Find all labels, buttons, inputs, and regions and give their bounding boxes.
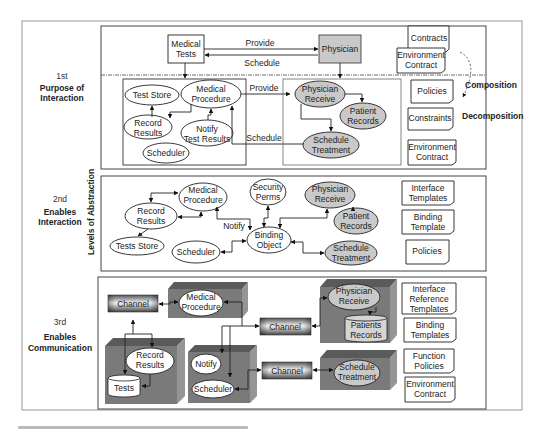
svg-text:Tests: Tests	[114, 383, 134, 393]
physician-receive-node: Physician Receive	[295, 81, 345, 107]
figure-caption	[18, 426, 248, 429]
svg-text:Interface: Interface	[411, 183, 444, 193]
svg-text:Perms: Perms	[256, 192, 281, 202]
policies-note: Policies	[411, 80, 453, 103]
svg-text:Policies: Policies	[417, 86, 446, 96]
svg-text:Contract: Contract	[405, 60, 438, 70]
svg-text:Templates: Templates	[411, 330, 450, 340]
svg-text:1st: 1st	[56, 71, 68, 81]
svg-text:Procedure: Procedure	[191, 94, 230, 104]
svg-text:Treatment: Treatment	[338, 372, 377, 382]
svg-text:Records: Records	[350, 330, 382, 340]
svg-text:3rd: 3rd	[54, 317, 67, 327]
l3-tests-cylinder: Tests	[108, 375, 140, 397]
svg-text:Results: Results	[137, 216, 165, 226]
svg-text:Records: Records	[340, 221, 372, 231]
svg-text:Object: Object	[257, 240, 282, 250]
l2-binding-object-node: Binding Object	[247, 227, 291, 253]
svg-text:Schedule: Schedule	[313, 135, 349, 145]
svg-text:Physician: Physician	[302, 84, 339, 94]
svg-text:Patients: Patients	[351, 320, 382, 330]
svg-text:Enables: Enables	[44, 207, 77, 217]
l3-interface-reference-templates-note: Interface Reference Templates	[402, 283, 456, 314]
l3-function-policies-note: Function Policies	[404, 349, 454, 373]
svg-text:Medical: Medical	[171, 39, 200, 49]
svg-text:Medical: Medical	[186, 292, 215, 302]
svg-text:Contract: Contract	[414, 389, 447, 399]
l2-tests-store-node: Tests Store	[110, 237, 164, 255]
test-store-node: Test Store	[125, 85, 179, 105]
l2-record-results-node: Record Results	[125, 203, 177, 229]
svg-text:Policies: Policies	[412, 246, 441, 256]
svg-text:Constraints: Constraints	[409, 113, 452, 123]
svg-text:Results: Results	[134, 128, 162, 138]
svg-text:Templates: Templates	[409, 193, 448, 203]
svg-text:Notify: Notify	[196, 124, 218, 134]
svg-text:Patient: Patient	[343, 211, 370, 221]
svg-text:Receive: Receive	[315, 194, 346, 204]
levels-of-abstraction-label: Levels of Abstraction	[86, 169, 96, 255]
svg-text:Record: Record	[136, 350, 164, 360]
svg-text:Physician: Physician	[322, 44, 359, 54]
medical-tests-box: Medical Tests	[168, 35, 204, 63]
composition-label: Composition	[465, 80, 517, 90]
svg-text:Binding: Binding	[414, 212, 443, 222]
svg-text:Binding: Binding	[416, 320, 445, 330]
svg-text:Reference: Reference	[409, 294, 448, 304]
svg-text:Test Results: Test Results	[184, 134, 230, 144]
svg-text:Tests Store: Tests Store	[116, 241, 159, 251]
svg-text:Test Store: Test Store	[133, 90, 172, 100]
constraints-note: Constraints	[408, 108, 453, 130]
svg-text:Purpose of: Purpose of	[40, 83, 85, 93]
l3-scheduler-node: Scheduler	[192, 380, 234, 398]
l2-schedule-treatment-node: Schedule Treatment	[325, 241, 377, 265]
svg-text:Record: Record	[134, 118, 162, 128]
svg-text:Treatment: Treatment	[332, 253, 371, 263]
svg-text:Template: Template	[411, 222, 446, 232]
l2-interface-templates-note: Interface Templates	[402, 181, 454, 205]
abstraction-levels-diagram: 1st Purpose of Interaction 2nd Enables I…	[0, 0, 546, 433]
svg-text:Enables: Enables	[44, 332, 77, 342]
svg-text:Security: Security	[253, 182, 284, 192]
decomposition-label: Decomposition	[462, 111, 523, 121]
l3-notify-node: Notify	[191, 354, 221, 374]
l3-physician-receive-node: Physician Receive	[328, 284, 380, 310]
l2-security-perms-node: Security Perms	[250, 179, 286, 205]
svg-text:Environment: Environment	[406, 379, 454, 389]
svg-text:Record: Record	[137, 206, 165, 216]
l3-medical-procedure-node: Medical Procedure	[179, 290, 223, 316]
l3-record-results-node: Record Results	[126, 348, 174, 374]
svg-text:Physician: Physician	[336, 286, 373, 296]
patient-records-node: Patient Records	[340, 103, 386, 129]
svg-text:Channel: Channel	[117, 299, 149, 309]
schedule-treatment-node: Schedule Treatment	[303, 132, 359, 158]
svg-text:Policies: Policies	[414, 361, 443, 371]
svg-text:Results: Results	[136, 360, 164, 370]
channel-3[interactable]: Channel	[262, 362, 312, 379]
environment-contract-top-note: Environment Contract	[397, 48, 445, 73]
l2-binding-template-note: Binding Template	[402, 210, 454, 234]
schedule-inner-label: Schedule	[246, 133, 282, 143]
svg-text:Channel: Channel	[269, 322, 301, 332]
l2-notify-label: Notify	[223, 221, 245, 231]
svg-text:2nd: 2nd	[53, 194, 67, 204]
l2-policies-note: Policies	[406, 240, 449, 264]
svg-text:Notify: Notify	[195, 359, 217, 369]
svg-text:Medical: Medical	[188, 185, 217, 195]
svg-text:Interaction: Interaction	[40, 93, 83, 103]
channel-2[interactable]: Channel	[260, 318, 311, 335]
svg-text:Scheduler: Scheduler	[177, 247, 215, 257]
l2-medical-procedure-node: Medical Procedure	[179, 183, 227, 211]
svg-text:Environment: Environment	[408, 142, 456, 152]
svg-text:Receive: Receive	[339, 296, 370, 306]
channel-1[interactable]: Channel	[108, 295, 158, 312]
l3-binding-templates-note: Binding Templates	[404, 318, 456, 342]
svg-text:Patient: Patient	[350, 106, 377, 116]
scheduler-node: Scheduler	[143, 143, 189, 163]
svg-text:Contract: Contract	[416, 152, 449, 162]
svg-text:Scheduler: Scheduler	[194, 384, 232, 394]
svg-text:Tests: Tests	[176, 49, 196, 59]
svg-text:Schedule: Schedule	[333, 243, 369, 253]
svg-text:Records: Records	[347, 116, 379, 126]
l3-environment-contract-note: Environment Contract	[405, 377, 455, 402]
